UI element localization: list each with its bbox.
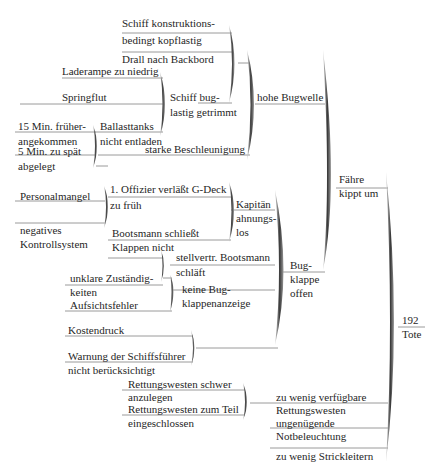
cause-label: Warnung der Schiffsführer bbox=[68, 350, 185, 363]
cause-label: keiten bbox=[70, 286, 97, 299]
cause-label: keine Bug- bbox=[182, 283, 231, 296]
cause-label: Personalmangel bbox=[20, 190, 90, 203]
cause-label: 15 Min. früher- bbox=[18, 120, 86, 133]
cause-label: Laderampe zu niedrig bbox=[62, 65, 159, 78]
cause-label: Rettungswesten zum Teil bbox=[128, 403, 239, 416]
cause-effect-diagram: Schiff konstruktions- bedingt kopflastig… bbox=[0, 0, 438, 470]
root-label: 192 bbox=[402, 314, 419, 327]
effect-label: Schiff bug- bbox=[170, 91, 220, 104]
cause-label: zu wenig verfügbare bbox=[276, 391, 366, 404]
cause-label: Kontrollsystem bbox=[20, 238, 88, 251]
cause-label: nicht berücksichtigt bbox=[68, 364, 155, 377]
cause-label: Springflut bbox=[62, 91, 107, 104]
cause-label: Aufsichtsfehler bbox=[70, 299, 138, 312]
cause-label: ungenügende bbox=[276, 417, 335, 430]
cause-label: klappenanzeige bbox=[182, 297, 250, 310]
cause-label: stellvertr. Bootsmann bbox=[176, 251, 270, 264]
effect-label: Bug- bbox=[290, 259, 312, 272]
cause-label: Ballasttanks bbox=[100, 120, 154, 133]
cause-label: eingeschlossen bbox=[128, 417, 194, 430]
cause-label: Notbeleuchtung bbox=[276, 430, 346, 443]
cause-label: 5 Min. zu spät bbox=[18, 145, 81, 158]
effect-label: kippt um bbox=[339, 187, 378, 200]
effect-label: los bbox=[236, 226, 249, 239]
effect-label: Kapitän bbox=[236, 198, 271, 211]
cause-label: abgelegt bbox=[18, 160, 55, 173]
cause-label: Rettungswesten bbox=[276, 404, 346, 417]
cause-label: Rettungswesten schwer bbox=[128, 378, 232, 391]
effect-label: hohe Bugwelle bbox=[257, 91, 323, 104]
effect-label: starke Beschleunigung bbox=[145, 143, 245, 156]
cause-label: Bootsmann schließt bbox=[112, 227, 199, 240]
effect-label: Fähre bbox=[339, 173, 364, 186]
cause-label: unklare Zuständig- bbox=[70, 272, 153, 285]
cause-label: 1. Offizier verläßt G-Deck bbox=[110, 183, 226, 196]
cause-label: Klappen nicht bbox=[112, 241, 174, 254]
cause-label: zu früh bbox=[110, 199, 141, 212]
effect-label: offen bbox=[290, 287, 313, 300]
effect-label: ahnungs- bbox=[236, 212, 276, 225]
cause-label: Schiff konstruktions- bbox=[122, 17, 215, 30]
cause-label: zu wenig Strickleitern bbox=[276, 450, 373, 463]
effect-label: lastig getrimmt bbox=[170, 106, 237, 119]
cause-label: Kostendruck bbox=[68, 324, 124, 337]
cause-label: negatives bbox=[20, 224, 62, 237]
root-label: Tote bbox=[402, 328, 421, 341]
cause-label: bedingt kopflastig bbox=[122, 34, 202, 47]
cause-label: schläft bbox=[176, 266, 205, 279]
effect-label: klappe bbox=[290, 273, 319, 286]
